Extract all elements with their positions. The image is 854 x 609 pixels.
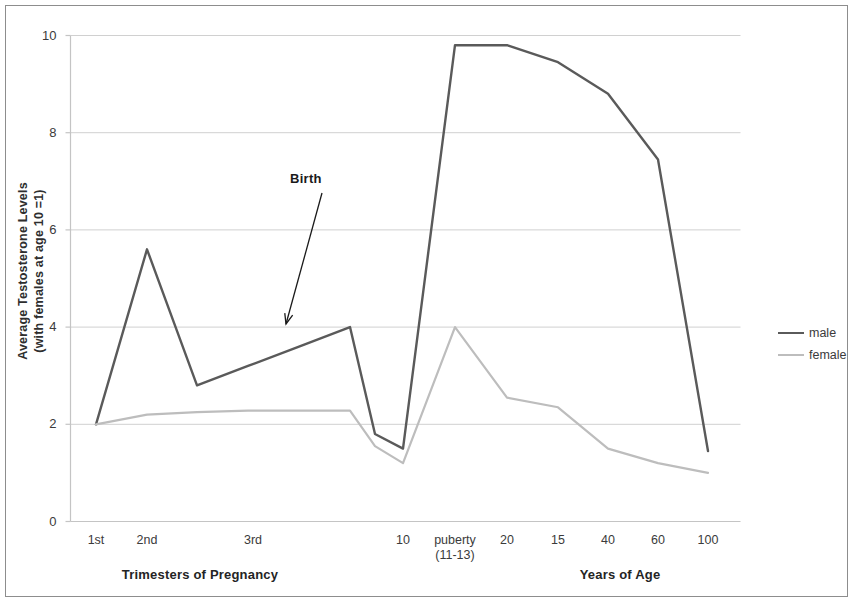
x-tick-label: 100 bbox=[668, 533, 748, 548]
y-axis-title-line2: (with females at age 10 =1) bbox=[31, 156, 47, 386]
x-axis-title-left: Trimesters of Pregnancy bbox=[40, 567, 360, 582]
gridlines bbox=[71, 36, 741, 425]
legend-label-female: female bbox=[809, 348, 847, 362]
legend-label-male: male bbox=[809, 326, 836, 340]
series-line-male bbox=[96, 45, 708, 451]
line-chart bbox=[0, 0, 854, 609]
y-axis-title: Average Testosterone Levels (with female… bbox=[15, 156, 47, 386]
legend-item-male[interactable]: male bbox=[778, 322, 852, 344]
chart-legend: malefemale bbox=[778, 322, 852, 366]
legend-swatch-male bbox=[778, 332, 804, 334]
birth-arrow bbox=[285, 193, 322, 324]
birth-annotation-label: Birth bbox=[290, 171, 322, 186]
y-tick-label: 8 bbox=[27, 126, 57, 139]
series-line-female bbox=[96, 327, 708, 473]
x-tick-label: 2nd bbox=[107, 533, 187, 548]
data-series bbox=[96, 45, 708, 473]
x-tick-label: 3rd bbox=[213, 533, 293, 548]
x-tick-label-text: 100 bbox=[668, 533, 748, 548]
y-tick-label: 10 bbox=[27, 29, 57, 42]
legend-item-female[interactable]: female bbox=[778, 344, 852, 366]
x-tick-label-text: 3rd bbox=[213, 533, 293, 548]
y-axis-title-line1: Average Testosterone Levels bbox=[15, 156, 31, 386]
y-tick-label: 2 bbox=[27, 417, 57, 430]
chart-page: 0246810 1st2nd3rd10puberty(11-13)2015406… bbox=[0, 0, 854, 609]
y-tick-label: 0 bbox=[27, 515, 57, 528]
x-axis-title-right: Years of Age bbox=[470, 567, 770, 582]
x-tick-label-text: 2nd bbox=[107, 533, 187, 548]
x-tick-label-sub: (11-13) bbox=[415, 548, 495, 563]
birth-arrow-shaft bbox=[286, 193, 322, 324]
legend-swatch-female bbox=[778, 354, 804, 356]
